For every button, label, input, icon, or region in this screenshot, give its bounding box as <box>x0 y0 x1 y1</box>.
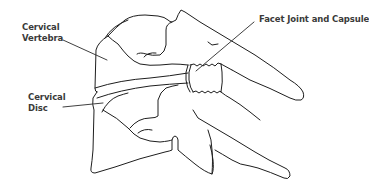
disc-leader-line <box>63 103 103 107</box>
facet-leader-line <box>196 22 254 71</box>
label-line-2: Disc <box>28 103 66 114</box>
cervical-disc <box>95 65 193 98</box>
lower-vertebra <box>91 85 290 179</box>
label-facet-joint-capsule: Facet Joint and Capsule <box>259 14 369 25</box>
facet-capsule <box>190 63 260 120</box>
label-line-2: Vertebra <box>22 33 63 44</box>
label-line-1: Cervical <box>22 22 63 33</box>
label-cervical-vertebra: Cervical Vertebra <box>22 22 63 44</box>
vertebra-leader-line <box>63 40 107 60</box>
label-cervical-disc: Cervical Disc <box>28 92 66 114</box>
label-line-1: Cervical <box>28 92 66 103</box>
label-line-1: Facet Joint and Capsule <box>259 14 369 25</box>
